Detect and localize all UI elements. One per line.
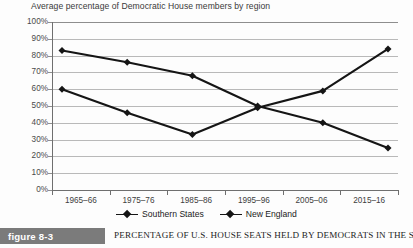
legend-item[interactable]: New England: [220, 209, 297, 219]
gridline: [52, 173, 398, 174]
gridline: [52, 22, 398, 23]
y-axis-tick-label: 30%: [32, 135, 48, 144]
y-axis-tick-mark: [48, 156, 52, 157]
figure-container: Average percentage of Democratic House m…: [0, 0, 413, 248]
x-axis-tick-mark: [340, 190, 341, 195]
x-axis-tick-label: 1975–76: [123, 196, 155, 205]
y-axis-line: [52, 22, 53, 191]
gridline: [52, 156, 398, 157]
y-axis-tick-label: 50%: [32, 101, 48, 110]
y-axis-tick-label: 100%: [27, 17, 48, 26]
x-axis-tick-mark: [398, 190, 399, 195]
legend-item[interactable]: Southern States: [116, 209, 204, 219]
gridline: [52, 123, 398, 124]
legend-label: New England: [246, 209, 297, 219]
chart-legend: Southern StatesNew England: [0, 209, 413, 219]
gridline: [52, 39, 398, 40]
plot-area: [52, 22, 398, 190]
y-axis-tick-label: 40%: [32, 118, 48, 127]
x-axis-tick-label: 1965–66: [65, 196, 97, 205]
gridline: [52, 106, 398, 107]
x-axis-tick-mark: [225, 190, 226, 195]
x-axis-tick-mark: [283, 190, 284, 195]
chart-title: Average percentage of Democratic House m…: [31, 1, 270, 11]
gridline: [52, 72, 398, 73]
y-axis-tick-mark: [48, 39, 52, 40]
legend-label: Southern States: [142, 209, 204, 219]
y-axis-tick-mark: [48, 22, 52, 23]
y-axis-tick-mark: [48, 56, 52, 57]
y-axis-tick-label: 20%: [32, 151, 48, 160]
y-axis-tick-mark: [48, 89, 52, 90]
x-axis-tick-label: 1995–96: [238, 196, 270, 205]
x-axis-tick-mark: [52, 190, 53, 195]
y-axis-tick-mark: [48, 173, 52, 174]
gridline: [52, 89, 398, 90]
figure-caption-bar: figure 8-3 Percentage of U.S. House Seat…: [0, 228, 413, 248]
x-axis-tick-label: 2015–16: [353, 196, 385, 205]
y-axis-tick-label: 70%: [32, 67, 48, 76]
figure-number-badge: figure 8-3: [0, 228, 105, 244]
y-axis-tick-mark: [48, 72, 52, 73]
y-axis-tick-label: 60%: [32, 84, 48, 93]
gridline: [52, 56, 398, 57]
y-axis-tick-label: 90%: [32, 34, 48, 43]
x-axis-tick-mark: [167, 190, 168, 195]
x-axis-tick-mark: [110, 190, 111, 195]
y-axis-tick-mark: [48, 140, 52, 141]
figure-caption-text: Percentage of U.S. House Seats Held by D…: [105, 228, 413, 240]
y-axis-tick-label: 80%: [32, 51, 48, 60]
y-axis-tick-mark: [48, 106, 52, 107]
gridline: [52, 140, 398, 141]
y-axis-tick-mark: [48, 123, 52, 124]
legend-diamond-icon: [220, 210, 242, 219]
x-axis-tick-label: 1985–86: [180, 196, 212, 205]
y-axis-tick-label: 0%: [36, 185, 48, 194]
legend-diamond-icon: [116, 210, 138, 219]
y-axis-tick-label: 10%: [32, 168, 48, 177]
x-axis-tick-label: 2005–06: [296, 196, 328, 205]
